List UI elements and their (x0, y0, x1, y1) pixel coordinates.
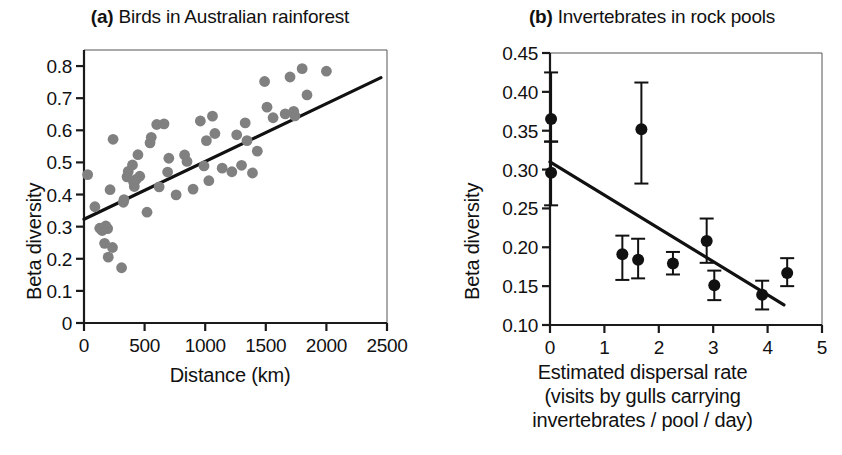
panel-a-data-point (162, 167, 173, 178)
panel-a-data-point (285, 72, 296, 83)
panel-a-data-point (199, 161, 210, 172)
panel-a-data-point (209, 128, 220, 139)
panel-b-regression-line (550, 162, 784, 305)
panel-a-x-tick-label: 2500 (366, 335, 407, 356)
panel-b-data-point (708, 279, 720, 291)
figure-container: (a) Birds in Australian rainforest 00.10… (0, 0, 842, 455)
panel-a-data-point (289, 110, 300, 121)
panel-a-data-point (105, 184, 116, 195)
panel-a-data-point (226, 166, 237, 177)
panel-a-data-point (207, 111, 218, 122)
panel-b-data-point (545, 113, 557, 125)
panel-b-data-point (756, 289, 768, 301)
panel-a-data-point (182, 156, 193, 167)
panel-b-y-tick-label: 0.15 (502, 276, 538, 297)
panel-a-y-tick-label: 0.2 (46, 249, 72, 270)
panel-b-y-tick-label: 0.30 (502, 160, 538, 181)
panel-a-y-tick-label: 0.7 (46, 88, 72, 109)
panel-a-data-point (217, 163, 228, 174)
panel-b-y-tick-label: 0.40 (502, 82, 538, 103)
panel-a-data-point (103, 252, 114, 263)
panel-b-x-axis-label-line2: (visits by gulls carrying (450, 384, 835, 408)
panel-a-data-point (163, 153, 174, 164)
panel-b-y-tick-label: 0.25 (502, 198, 538, 219)
panel-b-x-tick-label: 5 (817, 337, 827, 358)
panel-a-data-point (108, 134, 119, 145)
panel-a-data-point (259, 76, 270, 87)
panel-a-data-point (321, 66, 332, 77)
panel-b-x-tick-label: 1 (599, 337, 609, 358)
panel-b-data-point (545, 167, 557, 179)
panel-a-data-point (134, 171, 145, 182)
panel-a-data-point (262, 102, 273, 113)
panel-a-data-point (240, 118, 251, 129)
panel-a-data-point (195, 116, 206, 127)
panel-b: (b) Invertebrates in rock pools 0.100.15… (440, 0, 842, 455)
panel-a: (a) Birds in Australian rainforest 00.10… (0, 0, 440, 455)
panel-a-data-point (302, 90, 313, 101)
panel-b-axis-lines (550, 53, 822, 325)
panel-b-data-point (667, 258, 679, 270)
panel-a-y-tick-label: 0.3 (46, 217, 72, 238)
panel-b-plot-frame (550, 53, 822, 325)
panel-a-data-point (203, 175, 214, 186)
panel-a-x-tick-label: 1500 (245, 335, 286, 356)
panel-a-data-point (107, 242, 118, 253)
panel-a-x-axis-label: Distance (km) (60, 363, 400, 387)
panel-a-data-point (154, 181, 165, 192)
panel-a-y-tick-label: 0.4 (46, 185, 72, 206)
panel-a-y-tick-label: 0 (62, 313, 72, 334)
panel-a-data-point (268, 112, 279, 123)
panel-a-data-point (242, 135, 253, 146)
panel-b-x-tick-label: 4 (762, 337, 773, 358)
panel-b-y-tick-label: 0.45 (502, 43, 538, 64)
panel-a-data-point (252, 146, 263, 157)
panel-a-y-tick-label: 0.5 (46, 152, 72, 173)
panel-a-x-tick-label: 500 (129, 335, 160, 356)
panel-b-x-tick-label: 0 (545, 337, 555, 358)
panel-a-data-point (102, 223, 113, 234)
panel-b-y-tick-label: 0.20 (502, 237, 538, 258)
panel-a-data-point (236, 160, 247, 171)
panel-b-x-tick-label: 3 (708, 337, 718, 358)
panel-a-data-point (247, 168, 258, 179)
panel-b-y-tick-label: 0.35 (502, 121, 538, 142)
panel-b-data-point (701, 235, 713, 247)
panel-b-data-point (632, 254, 644, 266)
panel-b-data-point (616, 248, 628, 260)
panel-a-y-axis-label: Beta diversity (22, 183, 46, 300)
panel-a-data-point (297, 63, 308, 74)
panel-b-y-axis-label: Beta diversity (460, 183, 484, 300)
panel-a-data-point (116, 262, 127, 273)
panel-b-data-point (781, 267, 793, 279)
panel-a-y-tick-label: 0.8 (46, 56, 72, 77)
panel-a-data-point (90, 201, 101, 212)
panel-a-x-tick-label: 0 (79, 335, 89, 356)
panel-a-y-tick-label: 0.6 (46, 120, 72, 141)
panel-b-x-axis-label: Estimated dispersal rate (visits by gull… (450, 360, 835, 432)
panel-a-data-point (231, 129, 242, 140)
panel-a-data-point (142, 207, 153, 218)
panel-a-data-point (201, 135, 212, 146)
panel-a-data-point (82, 169, 93, 180)
panel-b-x-axis-label-line3: invertebrates / pool / day) (450, 408, 835, 432)
panel-a-data-point (146, 132, 157, 143)
panel-b-y-tick-label: 0.10 (502, 315, 538, 336)
panel-a-data-point (188, 184, 199, 195)
panel-a-data-point (159, 118, 170, 129)
panel-b-x-axis-label-line1: Estimated dispersal rate (450, 360, 835, 384)
panel-a-x-tick-label: 1000 (185, 335, 226, 356)
panel-a-y-tick-label: 0.1 (46, 281, 72, 302)
panel-a-data-point (133, 149, 144, 160)
panel-b-x-tick-label: 2 (654, 337, 664, 358)
panel-b-data-point (635, 123, 647, 135)
panel-a-data-point (127, 160, 138, 171)
panel-a-x-tick-label: 2000 (306, 335, 347, 356)
panel-a-data-point (119, 194, 130, 205)
panel-a-data-point (171, 189, 182, 200)
